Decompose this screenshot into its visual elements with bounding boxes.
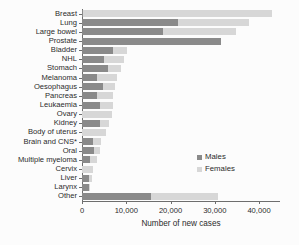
bar-segment-males: [82, 138, 93, 145]
x-axis-line: [82, 201, 280, 202]
category-label: Melanoma: [42, 74, 77, 81]
bar-segment-males: [82, 83, 103, 90]
x-axis-tick: [126, 201, 127, 204]
category-label: Oesophagus: [34, 83, 77, 90]
bar-row: [82, 156, 97, 163]
category-label: Brain and CNS*: [23, 138, 77, 145]
category-label: Multiple myeloma: [18, 156, 77, 163]
bar-row: [82, 10, 272, 17]
category-label: Stomach: [47, 64, 77, 71]
bar-segment-females: [103, 83, 115, 90]
bar-segment-males: [82, 74, 97, 81]
bar-row: [82, 111, 112, 118]
bar-segment-females: [82, 111, 112, 118]
category-label: Bladder: [51, 46, 77, 53]
bar-segment-females: [82, 129, 106, 136]
bar-row: [82, 38, 221, 45]
bar-segment-males: [82, 184, 89, 191]
bar-segment-females: [178, 19, 249, 26]
bar-segment-males: [82, 175, 89, 182]
bar-row: [82, 47, 127, 54]
x-axis-tick: [171, 201, 172, 204]
bar-segment-females: [93, 138, 101, 145]
bar-row: [82, 129, 106, 136]
x-axis-title: Number of new cases: [82, 219, 280, 228]
bar-segment-females: [100, 120, 110, 127]
bar-row: [82, 28, 236, 35]
legend-swatch-icon: [197, 167, 202, 172]
bar-segment-females: [97, 74, 117, 81]
bar-segment-females: [104, 56, 124, 63]
bar-segment-females: [113, 47, 127, 54]
bar-segment-females: [108, 65, 121, 72]
legend-item: Females: [197, 164, 235, 174]
x-axis-tick: [82, 201, 83, 204]
bar-row: [82, 19, 249, 26]
bar-row: [82, 175, 92, 182]
category-label: Lung: [60, 19, 77, 26]
bar-row: [82, 65, 121, 72]
category-label: Pancreas: [45, 92, 77, 99]
bar-segment-males: [82, 102, 100, 109]
bar-segment-males: [82, 92, 97, 99]
bar-segment-females: [83, 10, 272, 17]
bar-segment-males: [82, 56, 104, 63]
category-label: Leukaemia: [40, 101, 77, 108]
category-axis-labels: BreastLungLarge bowelProstateBladderNHLS…: [0, 9, 79, 201]
bar-segment-males: [82, 120, 100, 127]
bar-row: [82, 138, 101, 145]
category-label: Prostate: [49, 37, 77, 44]
bar-row: [82, 83, 115, 90]
category-label: Other: [58, 192, 77, 199]
category-label: Larynx: [54, 183, 77, 190]
category-label: Breast: [55, 10, 77, 17]
legend-label: Males: [205, 153, 226, 161]
bar-segment-males: [82, 156, 90, 163]
x-axis-tick-label: 0: [80, 206, 84, 215]
bar-row: [82, 166, 93, 173]
bar-row: [82, 184, 90, 191]
bar-row: [82, 120, 109, 127]
bar-row: [82, 102, 113, 109]
category-label: Kidney: [54, 119, 77, 126]
bar-segment-males: [82, 193, 151, 200]
legend-swatch-icon: [197, 155, 202, 160]
x-axis-tick-label: 40,000: [247, 206, 270, 215]
x-axis-tick-label: 30,000: [203, 206, 226, 215]
legend-label: Females: [205, 165, 235, 173]
bar-segment-females: [100, 102, 113, 109]
chart-figure: BreastLungLarge bowelProstateBladderNHLS…: [0, 0, 299, 245]
bar-row: [82, 147, 100, 154]
category-label: NHL: [62, 55, 77, 62]
bar-segment-females: [89, 175, 93, 182]
bar-segment-females: [97, 92, 113, 99]
x-axis-tick-label: 10,000: [115, 206, 138, 215]
bar-segment-females: [94, 147, 100, 154]
bar-row: [82, 56, 124, 63]
bar-segment-males: [82, 28, 163, 35]
x-axis-tick: [215, 201, 216, 204]
x-axis-tick-label: 20,000: [159, 206, 182, 215]
x-axis-tick: [259, 201, 260, 204]
bar-segment-females: [90, 156, 97, 163]
bar-row: [82, 92, 113, 99]
bar-segment-males: [82, 47, 113, 54]
bar-segment-females: [82, 166, 93, 173]
bar-row: [82, 74, 117, 81]
category-label: Large bowel: [36, 28, 77, 35]
category-label: Liver: [61, 174, 77, 181]
bar-segment-males: [82, 147, 94, 154]
bar-segment-males: [82, 19, 178, 26]
bar-segment-females: [163, 28, 236, 35]
bar-segment-females: [151, 193, 218, 200]
bar-segment-males: [82, 65, 108, 72]
chart-legend: MalesFemales: [197, 152, 235, 176]
category-label: Oral: [63, 147, 77, 154]
bar-segment-females: [89, 184, 91, 191]
bar-row: [82, 193, 218, 200]
category-label: Cervix: [55, 165, 77, 172]
legend-item: Males: [197, 152, 235, 162]
category-label: Body of uterus: [28, 128, 77, 135]
category-label: Ovary: [57, 110, 77, 117]
bar-segment-males: [82, 38, 221, 45]
